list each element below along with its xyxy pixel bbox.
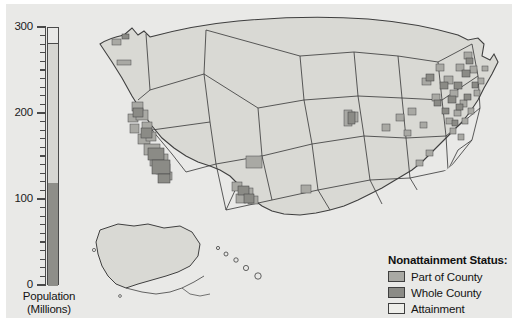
legend-swatch [388, 303, 405, 314]
legend-item: Attainment [388, 301, 526, 316]
legend-title: Nonattainment Status: [388, 254, 526, 266]
y-axis-minor-tick [40, 207, 46, 208]
hawaii-inset [216, 246, 261, 279]
axis-caption-line2: (Millions) [6, 303, 92, 316]
bar-empty-top [48, 28, 58, 43]
y-axis-minor-tick [40, 130, 46, 131]
y-axis-tick-label: 200 [14, 107, 33, 118]
map-legend: Nonattainment Status: Part of CountyWhol… [388, 254, 526, 317]
y-axis-minor-tick [40, 216, 46, 217]
y-axis-minor-tick [40, 104, 46, 105]
y-axis-major-tick [37, 284, 46, 285]
y-axis-tick-label: 300 [14, 21, 33, 32]
legend-item-label: Part of County [411, 271, 482, 283]
y-axis-minor-tick [40, 190, 46, 191]
population-bar-chart: 0100200300 Population (Millions) [6, 4, 92, 318]
y-axis-minor-tick [40, 44, 46, 45]
y-axis-minor-tick [40, 35, 46, 36]
y-axis-tick-label: 100 [14, 193, 33, 204]
y-axis-caption: Population (Millions) [6, 290, 92, 316]
y-axis-minor-tick [40, 95, 46, 96]
legend-swatch [388, 287, 405, 298]
y-axis-minor-tick [40, 233, 46, 234]
y-axis-major-tick [37, 198, 46, 199]
y-axis-minor-tick [40, 61, 46, 62]
legend-item: Whole County [388, 285, 526, 300]
y-axis-minor-tick [40, 224, 46, 225]
y-axis-minor-tick [40, 121, 46, 122]
y-axis-tick-label: 0 [27, 279, 33, 290]
y-axis-minor-tick [40, 164, 46, 165]
legend-swatch [388, 271, 405, 282]
legend-item-label: Whole County [411, 287, 481, 299]
y-axis-minor-tick [40, 78, 46, 79]
y-axis-minor-tick [40, 147, 46, 148]
y-axis-minor-tick [40, 138, 46, 139]
united-states-map: Nonattainment Status: Part of CountyWhol… [86, 4, 512, 318]
y-axis-minor-tick [40, 52, 46, 53]
legend-items: Part of CountyWhole CountyAttainment [388, 269, 526, 316]
bar-segment [48, 182, 58, 280]
y-axis-minor-tick [40, 267, 46, 268]
y-axis-major-tick [37, 26, 46, 27]
y-axis-minor-tick [40, 276, 46, 277]
bar-segment [48, 43, 58, 183]
legend-item: Part of County [388, 269, 526, 284]
y-axis-minor-tick [40, 155, 46, 156]
y-axis-minor-tick [40, 87, 46, 88]
map-land-lower48 [100, 17, 498, 215]
y-axis-minor-tick [40, 181, 46, 182]
population-bar [47, 27, 59, 285]
axis-caption-line1: Population [6, 290, 92, 303]
y-axis-minor-tick [40, 250, 46, 251]
y-axis-minor-tick [40, 69, 46, 70]
y-axis-major-tick [37, 112, 46, 113]
bar-segment [48, 279, 58, 286]
y-axis-minor-tick [40, 173, 46, 174]
figure-root: 0100200300 Population (Millions) [0, 0, 526, 334]
legend-item-label: Attainment [411, 303, 464, 315]
alaska-inset [92, 224, 210, 297]
y-axis-minor-tick [40, 259, 46, 260]
y-axis-minor-tick [40, 241, 46, 242]
